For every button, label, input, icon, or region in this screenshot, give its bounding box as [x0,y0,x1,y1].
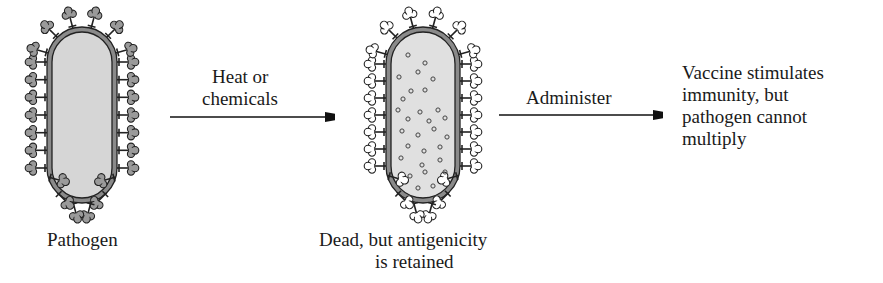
arrow1-label-line2: chemicals [202,88,278,110]
arrow2-label: Administer [526,87,612,109]
pathogen-illustration [25,5,139,224]
pathogen-label: Pathogen [47,229,118,251]
dead-label-line2: is retained [375,251,454,273]
outcome-line1: Vaccine stimulates [682,62,824,84]
arrow1-label-line1: Heat or [212,66,268,88]
outcome-line3: pathogen cannot [682,106,807,128]
dead-label-line1: Dead, but antigenicity [319,229,487,251]
outcome-line4: multiply [682,128,746,150]
dead-pathogen-illustration [364,5,482,224]
outcome-line2: immunity, but [682,84,788,106]
